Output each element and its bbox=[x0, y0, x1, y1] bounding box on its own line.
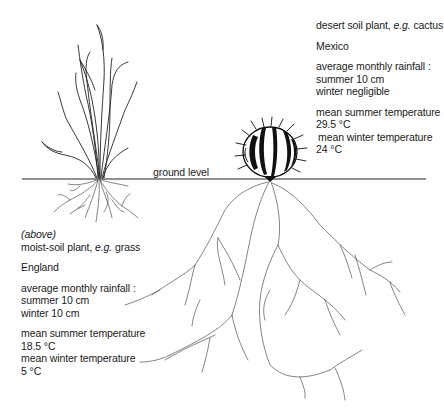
cactus-rainfall-label: average monthly rainfall : bbox=[316, 60, 443, 73]
grass-plant-icon bbox=[42, 25, 137, 178]
ground-level-label: ground level bbox=[153, 166, 209, 179]
cactus-summer-temp-label: mean summer temperature bbox=[316, 106, 443, 119]
grass-winter-temp-label: mean winter temperature bbox=[21, 352, 145, 365]
grass-summer-temp-value: 18.5 °C bbox=[21, 340, 145, 353]
cactus-winter-temp-value: 24 °C bbox=[316, 143, 443, 156]
grass-info: (above) moist-soil plant, e.g. grass Eng… bbox=[21, 228, 145, 377]
cactus-title: desert soil plant, e.g. cactus bbox=[316, 19, 443, 32]
cactus-winter-temp-label: mean winter temperature bbox=[316, 131, 443, 144]
grass-roots-icon bbox=[54, 180, 138, 222]
grass-winter-temp-value: 5 °C bbox=[21, 365, 145, 378]
cactus-rainfall-winter: winter negligible bbox=[316, 85, 443, 98]
grass-position-note: (above) bbox=[21, 228, 145, 241]
grass-summer-temp-label: mean summer temperature bbox=[21, 327, 145, 340]
grass-title: moist-soil plant, e.g. grass bbox=[21, 241, 145, 254]
grass-rainfall-winter: winter 10 cm bbox=[21, 307, 145, 320]
grass-rainfall-label: average monthly rainfall : bbox=[21, 282, 145, 295]
cactus-summer-temp-value: 29.5 °C bbox=[316, 118, 443, 131]
cactus-plant-icon bbox=[235, 117, 307, 182]
cactus-roots-icon bbox=[125, 182, 405, 400]
cactus-country: Mexico bbox=[316, 40, 443, 53]
grass-country: England bbox=[21, 261, 145, 274]
grass-rainfall-summer: summer 10 cm bbox=[21, 294, 145, 307]
cactus-info: desert soil plant, e.g. cactus Mexico av… bbox=[316, 19, 443, 156]
cactus-rainfall-summer: summer 10 cm bbox=[316, 73, 443, 86]
